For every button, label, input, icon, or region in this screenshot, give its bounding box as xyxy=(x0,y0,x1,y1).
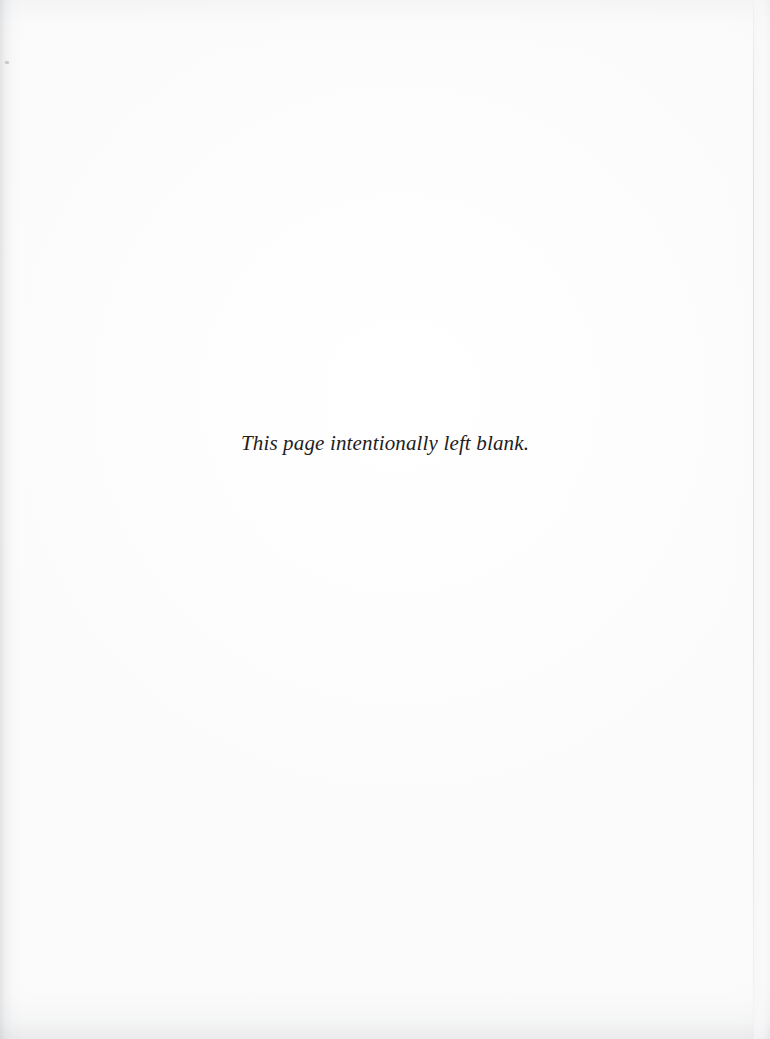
blank-page-notice: This page intentionally left blank. xyxy=(0,430,770,456)
scanned-page: This page intentionally left blank. xyxy=(0,0,770,1039)
paper-background xyxy=(0,0,770,1039)
